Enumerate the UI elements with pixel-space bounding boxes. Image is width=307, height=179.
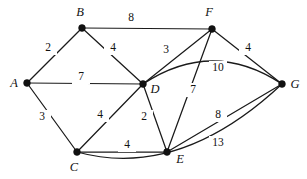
edge-weight-d-e: 2	[141, 110, 147, 122]
vertex-label-b: B	[76, 5, 84, 19]
edge-weight-a-d: 7	[78, 70, 84, 82]
vertex-node-g	[279, 81, 286, 88]
vertex-label-g: G	[290, 77, 299, 91]
edge-weight-c-d: 4	[97, 108, 103, 120]
edge-weight-a-b: 2	[45, 41, 51, 53]
vertex-label-a: A	[9, 76, 18, 90]
vertex-node-f	[209, 26, 216, 33]
edge-weight-b-d: 4	[110, 41, 116, 53]
vertex-label-c: C	[70, 160, 79, 174]
vertex-label-f: F	[204, 5, 213, 19]
edge-weight-e-f: 7	[190, 83, 196, 95]
weighted-graph-figure: 2847342434710813 ABCDEFG	[0, 0, 307, 179]
edge-weight-c-e: 4	[124, 138, 130, 150]
vertex-label-d: D	[149, 82, 159, 96]
vertex-label-e: E	[175, 152, 184, 166]
edge-weight-e-g: 8	[215, 108, 221, 120]
edge-weight-c-g: 13	[212, 136, 224, 148]
vertex-node-b	[79, 25, 86, 32]
edge-weight-d-f: 3	[163, 43, 169, 55]
vertex-node-a	[24, 80, 31, 87]
edge-weight-a-c: 3	[39, 110, 45, 122]
graph-canvas: 2847342434710813 ABCDEFG	[0, 0, 307, 179]
vertex-node-e	[164, 149, 171, 156]
edge-weight-d-g: 10	[212, 61, 224, 73]
vertices-layer: ABCDEFG	[9, 5, 299, 174]
vertex-node-d	[140, 81, 147, 88]
edge-f-g	[212, 29, 282, 84]
edge-weight-b-f: 8	[128, 11, 134, 23]
edge-weight-f-g: 4	[245, 41, 251, 53]
edge-b-f	[82, 28, 212, 29]
vertex-node-c	[74, 149, 81, 156]
edge-b-d	[82, 28, 143, 84]
